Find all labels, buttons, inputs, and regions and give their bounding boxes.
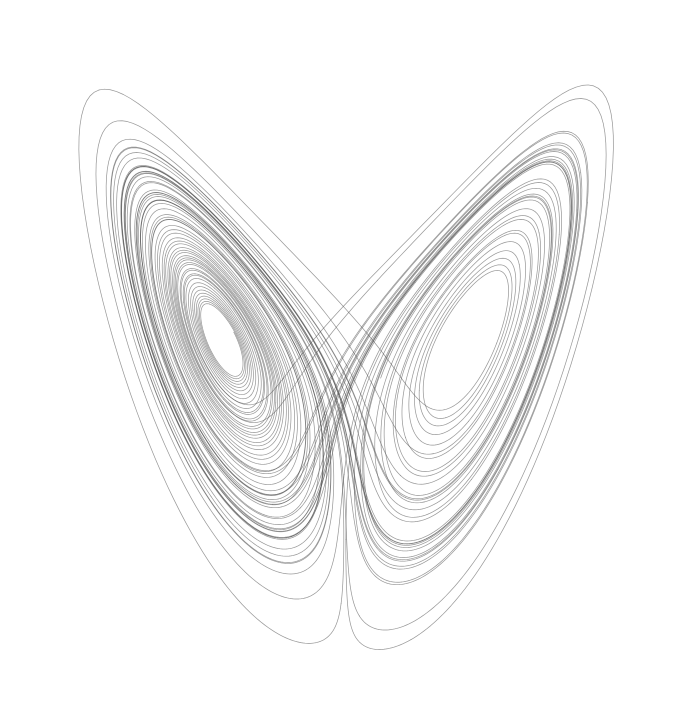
lorenz-attractor-plot	[0, 0, 690, 723]
lorenz-attractor-figure	[0, 0, 690, 723]
